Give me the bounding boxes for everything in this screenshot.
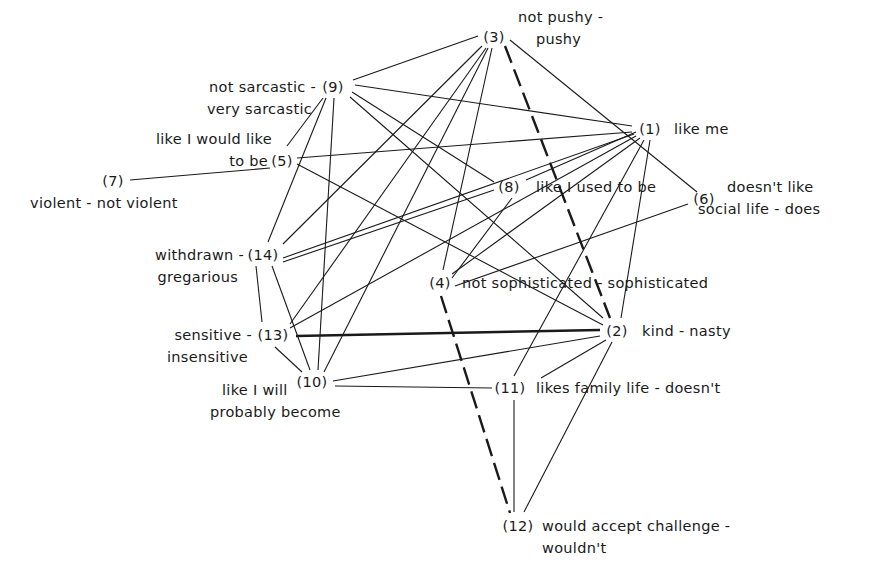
- edge-14-10: [272, 266, 310, 370]
- edge-9-14: [268, 98, 326, 242]
- node-number: (9): [322, 79, 343, 95]
- node-label: probably become: [210, 404, 341, 420]
- node-label: would accept challenge -: [542, 518, 730, 534]
- node-number: (10): [297, 374, 328, 390]
- node-label: very sarcastic: [207, 101, 312, 117]
- node-number: (3): [483, 29, 504, 45]
- node-number: (5): [271, 153, 292, 169]
- node-14: (14)withdrawn -gregarious: [155, 247, 279, 285]
- node-3: (3)not pushy -pushy: [483, 9, 603, 47]
- node-number: (1): [639, 121, 660, 137]
- node-label: not sophisticated - sophisticated: [462, 275, 708, 291]
- node-number: (4): [429, 275, 450, 291]
- edge-3-14: [283, 46, 482, 244]
- edge-2-12: [524, 342, 612, 512]
- node-label: to be: [229, 153, 268, 169]
- node-label: likes family life - doesn't: [536, 380, 720, 396]
- node-7: (7)violent - not violent: [30, 173, 178, 211]
- node-label: withdrawn -: [155, 247, 244, 263]
- node-9: (9)not sarcastic -very sarcastic: [207, 79, 344, 117]
- node-4: (4)not sophisticated - sophisticated: [429, 275, 708, 291]
- edge-3-10: [324, 48, 488, 372]
- edge-3-6: [510, 40, 697, 192]
- node-label: wouldn't: [542, 540, 606, 556]
- node-number: (13): [258, 327, 289, 343]
- node-2: (2)kind - nasty: [606, 323, 731, 339]
- node-number: (14): [248, 247, 279, 263]
- edge-14-13: [256, 266, 262, 322]
- node-10: (10)like I willprobably become: [210, 374, 341, 420]
- edge-13-10: [275, 347, 302, 372]
- node-1: (1)like me: [639, 121, 728, 137]
- node-label: insensitive: [167, 349, 248, 365]
- node-number: (8): [498, 179, 519, 195]
- node-12: (12)would accept challenge -wouldn't: [503, 518, 731, 556]
- node-number: (7): [102, 173, 123, 189]
- node-11: (11)likes family life - doesn't: [495, 380, 721, 396]
- node-number: (2): [606, 323, 627, 339]
- edge-1-2: [621, 140, 650, 318]
- node-label: sensitive -: [174, 327, 252, 343]
- edge-5-1: [297, 132, 632, 158]
- edge-1-14: [283, 134, 634, 258]
- edge-8-4: [452, 198, 512, 278]
- node-label: not pushy -: [518, 9, 603, 25]
- node-layer: (1)like me(2)kind - nasty(3)not pushy -p…: [30, 9, 820, 556]
- node-label: social life - does: [698, 201, 820, 217]
- node-13: (13)sensitive -insensitive: [167, 327, 288, 365]
- edge-3-9: [353, 36, 478, 80]
- node-6: (6)doesn't likesocial life - does: [693, 179, 820, 217]
- node-5: (5)like I would liketo be: [156, 131, 293, 169]
- node-label: like I will: [222, 382, 288, 398]
- edge-1-13: [290, 136, 636, 328]
- node-number: (11): [495, 380, 526, 396]
- node-label: not sarcastic -: [209, 79, 316, 95]
- edge-13-2: [296, 330, 600, 336]
- node-label: like I would like: [156, 131, 272, 147]
- node-label: like me: [674, 121, 729, 137]
- node-label: gregarious: [158, 269, 238, 285]
- node-8: (8)like I used to be: [498, 179, 656, 195]
- edge-4-12: [441, 296, 510, 513]
- node-label: violent - not violent: [30, 195, 178, 211]
- node-label: like I used to be: [536, 179, 656, 195]
- edge-3-4: [443, 48, 492, 270]
- construct-network-diagram: (1)like me(2)kind - nasty(3)not pushy -p…: [0, 0, 877, 578]
- node-label: doesn't like: [727, 179, 813, 195]
- edge-9-10: [318, 98, 334, 370]
- node-label: kind - nasty: [642, 323, 731, 339]
- node-label: pushy: [536, 31, 581, 47]
- edge-5-7: [130, 168, 270, 180]
- edge-10-11: [335, 386, 492, 388]
- node-number: (12): [503, 518, 534, 534]
